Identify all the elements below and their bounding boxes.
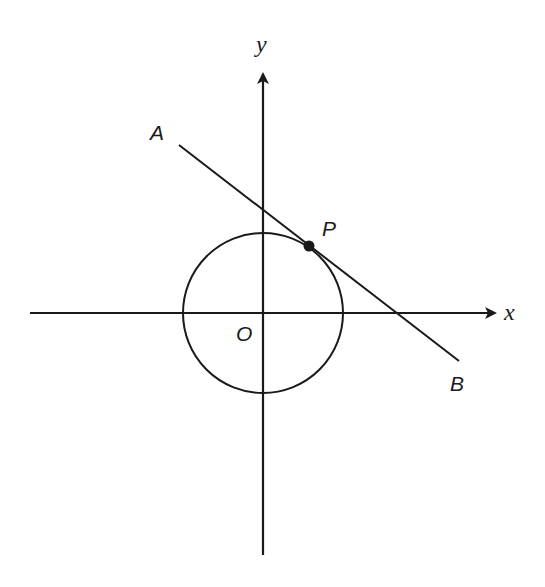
point-p-label: P xyxy=(322,217,336,240)
point-a-label: A xyxy=(148,121,164,144)
y-axis-label: y xyxy=(254,31,267,57)
coordinate-diagram: y x A B P O xyxy=(0,0,545,587)
tangent-point-p xyxy=(304,241,315,252)
x-axis-label: x xyxy=(503,299,515,325)
point-b-label: B xyxy=(450,372,464,395)
origin-label: O xyxy=(236,322,252,345)
tangent-line-ab xyxy=(179,145,459,361)
